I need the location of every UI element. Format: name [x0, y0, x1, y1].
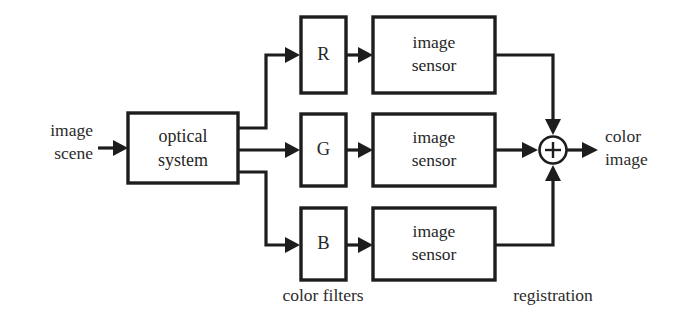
diagram-svg: image scene optical system R G B image s…	[0, 0, 690, 322]
sum-bottom-arrowhead	[545, 165, 561, 181]
block-diagram-canvas: image scene optical system R G B image s…	[0, 0, 690, 322]
green-sensor-arrowhead	[358, 142, 373, 158]
branch-wire-red	[238, 47, 300, 128]
optical-system-label-line1: optical	[159, 126, 208, 146]
sum-left-arrowhead	[522, 142, 538, 158]
sensor-red-label-line2: sensor	[412, 55, 457, 75]
optical-system-label-line2: system	[158, 150, 208, 170]
red-sensor-arrowhead	[358, 47, 373, 63]
sensor-red-label-line1: image	[413, 32, 456, 52]
blue-branch-arrowhead	[285, 237, 300, 253]
registration-group-label: registration	[513, 285, 593, 305]
green-branch-arrowhead	[285, 142, 300, 158]
output-arrowhead	[582, 142, 598, 158]
wire-blue-filter-to-sensor	[346, 237, 373, 253]
color-filters-group-label: color filters	[282, 285, 363, 305]
green-filter-label: G	[317, 139, 330, 159]
red-branch-arrowhead	[285, 47, 300, 63]
summing-junction[interactable]	[540, 137, 567, 164]
blue-sensor-arrowhead	[358, 237, 373, 253]
sum-top-arrowhead	[545, 119, 561, 135]
output-label-line1: color	[605, 126, 641, 146]
input-label-line1: image	[50, 120, 93, 140]
wire-red-filter-to-sensor	[346, 47, 373, 63]
sensor-green-label-line1: image	[413, 127, 456, 147]
input-wire	[98, 140, 128, 156]
wire-red-sensor-to-sum	[495, 55, 561, 135]
sensor-blue-label-line1: image	[413, 221, 456, 241]
output-label-line2: image	[605, 149, 648, 169]
output-wire	[567, 142, 598, 158]
wire-green-sensor-to-sum	[495, 142, 538, 158]
wire-blue-sensor-to-sum	[495, 165, 561, 245]
input-arrowhead	[113, 140, 128, 156]
branch-wire-green	[238, 142, 300, 158]
optical-system-block[interactable]	[128, 113, 238, 183]
branch-wire-blue	[238, 172, 300, 253]
blue-filter-label: B	[317, 233, 329, 253]
sensor-blue-label-line2: sensor	[412, 244, 457, 264]
input-label-line2: scene	[54, 143, 93, 163]
red-filter-label: R	[317, 44, 330, 64]
wire-green-filter-to-sensor	[346, 142, 373, 158]
sensor-green-label-line2: sensor	[412, 150, 457, 170]
